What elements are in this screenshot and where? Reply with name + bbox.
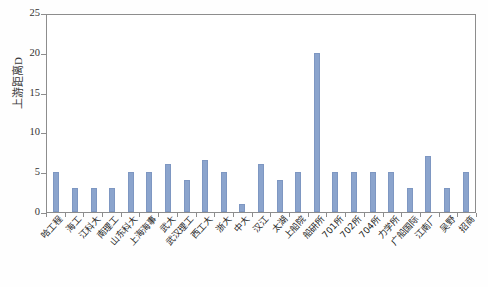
bar-slot xyxy=(270,15,289,212)
x-axis-labels: 哈工程海工江科大南理工山东科大上海海事武大武汉理工西工大浙大中大汉江太湖上船院船… xyxy=(46,217,476,283)
bar xyxy=(128,172,134,212)
y-tick-label: 5 xyxy=(10,166,40,177)
bar xyxy=(258,164,264,212)
bar xyxy=(184,180,190,212)
bar-slot xyxy=(233,15,252,212)
bar xyxy=(388,172,394,212)
bar-slot xyxy=(252,15,271,212)
y-tick-label: 15 xyxy=(10,87,40,98)
bar-slot xyxy=(47,15,66,212)
bar-slot xyxy=(382,15,401,212)
bar-slot xyxy=(345,15,364,212)
bar xyxy=(277,180,283,212)
bar xyxy=(221,172,227,212)
y-axis-title-text: 上游距离D xyxy=(12,57,24,109)
bar xyxy=(202,160,208,212)
bar-slot xyxy=(456,15,475,212)
bar xyxy=(53,172,59,212)
x-tick-label: 哈工程 xyxy=(37,213,65,242)
bar-slot xyxy=(159,15,178,212)
bar xyxy=(109,188,115,212)
bar-slot xyxy=(308,15,327,212)
bar-slot xyxy=(401,15,420,212)
y-tick-label: 25 xyxy=(10,7,40,18)
bar-slot xyxy=(326,15,345,212)
bar xyxy=(425,156,431,212)
bar-slot xyxy=(84,15,103,212)
bar xyxy=(370,172,376,212)
bar-slot xyxy=(438,15,457,212)
bar xyxy=(239,204,245,212)
bar xyxy=(146,172,152,212)
bar-slot xyxy=(419,15,438,212)
bar-slot xyxy=(121,15,140,212)
bar-slot xyxy=(66,15,85,212)
bars-layer xyxy=(47,15,475,212)
y-tick-label: 20 xyxy=(10,47,40,58)
bar xyxy=(91,188,97,212)
bar-slot xyxy=(140,15,159,212)
bar xyxy=(463,172,469,212)
bar xyxy=(72,188,78,212)
bar-slot xyxy=(177,15,196,212)
bar xyxy=(295,172,301,212)
x-tick-mark xyxy=(476,213,477,217)
bar xyxy=(444,188,450,212)
bar-slot xyxy=(363,15,382,212)
bar-slot xyxy=(214,15,233,212)
bar xyxy=(351,172,357,212)
plot-area xyxy=(46,14,476,213)
bar-chart: 上游距离D 0510152025 哈工程海工江科大南理工山东科大上海海事武大武汉… xyxy=(0,0,488,287)
y-tick-label: 10 xyxy=(10,126,40,137)
bar-slot xyxy=(103,15,122,212)
bar xyxy=(407,188,413,212)
bar xyxy=(165,164,171,212)
bar-slot xyxy=(196,15,215,212)
y-tick-label: 0 xyxy=(10,206,40,217)
bar xyxy=(332,172,338,212)
bar-slot xyxy=(289,15,308,212)
bar xyxy=(314,53,320,212)
